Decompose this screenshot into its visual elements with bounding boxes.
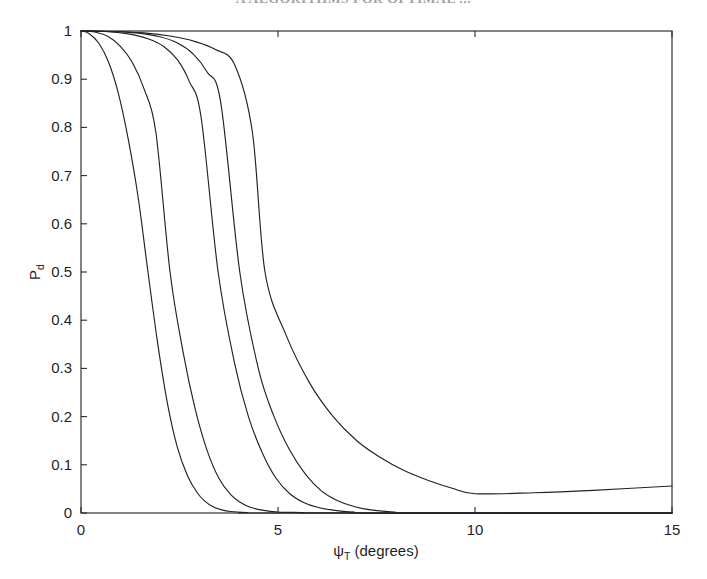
line-chart: 00.10.20.30.40.50.60.70.80.91 051015 Pd … <box>0 0 707 579</box>
y-axis-label: Pd <box>26 264 46 280</box>
y-axis-label-subscript: d <box>34 264 46 270</box>
y-axis-ticks <box>81 31 87 513</box>
y-tick-label: 0.4 <box>51 311 72 328</box>
x-tick-label: 5 <box>274 521 282 538</box>
figure-page: A ALGORITHMS FOR OPTIMAL ... 00.10.20.30… <box>0 0 707 579</box>
x-axis-label-main: ψ <box>333 542 344 559</box>
x-tick-label: 0 <box>77 521 85 538</box>
x-axis-label-units: (degrees) <box>354 542 418 559</box>
x-axis-label-subscript: T <box>344 550 351 562</box>
chart-figure: 00.10.20.30.40.50.60.70.80.91 051015 Pd … <box>0 0 707 579</box>
y-tick-label: 1 <box>64 22 72 39</box>
y-axis-label-main: P <box>26 270 43 280</box>
y-tick-label: 0.5 <box>51 263 72 280</box>
x-tick-label: 15 <box>664 521 681 538</box>
y-tick-label: 0 <box>64 504 72 521</box>
chart-series-group <box>81 31 672 513</box>
x-axis-label: ψT(degrees) <box>333 542 418 562</box>
y-tick-label: 0.2 <box>51 408 72 425</box>
series-curve-2 <box>81 31 672 513</box>
y-tick-label: 0.7 <box>51 167 72 184</box>
x-axis-tick-labels: 051015 <box>77 521 681 538</box>
x-tick-label: 10 <box>467 521 484 538</box>
y-tick-label: 0.6 <box>51 215 72 232</box>
y-tick-label: 0.9 <box>51 70 72 87</box>
y-tick-label: 0.8 <box>51 118 72 135</box>
series-curve-5 <box>81 31 672 494</box>
svg-text:Pd: Pd <box>26 264 46 280</box>
y-tick-label: 0.1 <box>51 456 72 473</box>
y-axis-tick-labels: 00.10.20.30.40.50.60.70.80.91 <box>51 22 72 521</box>
y-tick-label: 0.3 <box>51 359 72 376</box>
